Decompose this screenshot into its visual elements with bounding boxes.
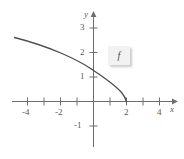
y-tick-label-pos3: 3 <box>80 23 85 32</box>
curve-label-box: f <box>108 46 130 65</box>
x-tick-label-neg4: -4 <box>22 108 30 117</box>
y-tick-label-pos2: 2 <box>80 48 85 57</box>
y-tick-label-neg1: -1 <box>74 121 82 130</box>
x-tick-label-pos4: 4 <box>157 108 162 117</box>
curve-label: f <box>118 51 121 61</box>
y-tick-label-pos1: 1 <box>80 72 85 81</box>
x-tick-label-neg2: -2 <box>55 108 63 117</box>
x-axis-label: x <box>170 105 174 114</box>
x-tick-label-pos2: 2 <box>124 108 129 117</box>
graph-figure: -4 -2 2 4 3 2 1 -1 y x f <box>0 0 184 159</box>
plot-canvas <box>0 0 184 159</box>
y-axis-label: y <box>84 10 88 19</box>
y-axis-arrow-icon <box>91 11 97 17</box>
